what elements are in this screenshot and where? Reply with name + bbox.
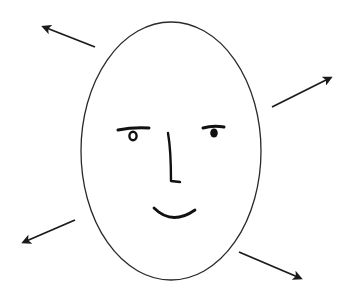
arrow-lower-left-icon bbox=[24, 220, 75, 242]
smile-icon bbox=[154, 208, 195, 218]
arrow-upper-left-icon bbox=[44, 27, 95, 47]
arrow-lower-right-icon bbox=[239, 252, 300, 278]
left-eye-icon bbox=[118, 128, 149, 140]
face-diagram bbox=[0, 0, 349, 306]
diagram-canvas: Face with outward arrows bbox=[0, 0, 349, 306]
nose-icon bbox=[168, 133, 180, 182]
arrow-upper-right-icon bbox=[272, 78, 330, 107]
right-eye-icon bbox=[203, 126, 224, 137]
